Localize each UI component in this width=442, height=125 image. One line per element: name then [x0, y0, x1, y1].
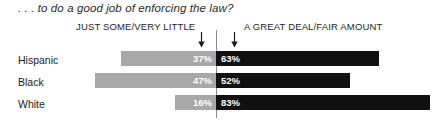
- bar-rows: Hispanic 37% 63% Black 47% 52% White: [0, 50, 442, 116]
- bar-value-right: 63%: [221, 53, 240, 64]
- arrow-down-icon-left: [197, 32, 206, 48]
- bar-right-segment: [216, 95, 430, 110]
- bar-value-right: 52%: [221, 75, 240, 86]
- bar-area: 37% 63%: [0, 51, 442, 66]
- column-header-a-great-deal-fair-amount: A GREAT DEAL/FAIR AMOUNT: [244, 21, 382, 32]
- bar-value-left: 16%: [175, 97, 212, 108]
- bar-value-right: 83%: [221, 97, 240, 108]
- chart-container: . . . to do a good job of enforcing the …: [0, 0, 442, 125]
- bar-right-segment: [216, 51, 379, 66]
- bar-area: 16% 83%: [0, 95, 442, 110]
- table-row: Black 47% 52%: [0, 72, 442, 94]
- table-row: White 16% 83%: [0, 94, 442, 116]
- bar-value-left: 37%: [121, 53, 212, 64]
- table-row: Hispanic 37% 63%: [0, 50, 442, 72]
- arrow-down-icon-right: [230, 32, 239, 48]
- bar-value-left: 47%: [95, 75, 212, 86]
- bar-area: 47% 52%: [0, 73, 442, 88]
- page-title: . . . to do a good job of enforcing the …: [18, 2, 233, 14]
- column-header-just-some-very-little: JUST SOME/VERY LITTLE: [76, 21, 195, 32]
